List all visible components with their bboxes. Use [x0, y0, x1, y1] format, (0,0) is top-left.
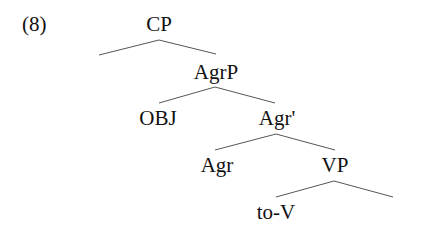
edge-agrp-agrbar — [215, 87, 275, 103]
edge-agrbar-agr — [215, 134, 276, 150]
tree-edges — [0, 0, 421, 231]
node-obj: OBJ — [139, 108, 176, 129]
edge-vp-right — [334, 181, 393, 197]
edge-vp-tov — [276, 181, 334, 197]
node-cp: CP — [146, 14, 172, 35]
node-agr-bar: Agr' — [259, 108, 295, 129]
syntax-tree-diagram: (8) CP AgrP OBJ Agr' Agr VP to-V — [0, 0, 421, 231]
node-agrp: AgrP — [194, 62, 238, 83]
node-agr: Agr — [201, 155, 234, 176]
node-vp: VP — [322, 155, 349, 176]
example-number: (8) — [22, 14, 47, 35]
edge-cp-left — [99, 40, 159, 55]
node-to-v: to-V — [257, 202, 296, 223]
edge-cp-agrp — [159, 40, 216, 54]
edge-agrp-obj — [159, 87, 215, 103]
edge-agrbar-vp — [276, 134, 335, 150]
